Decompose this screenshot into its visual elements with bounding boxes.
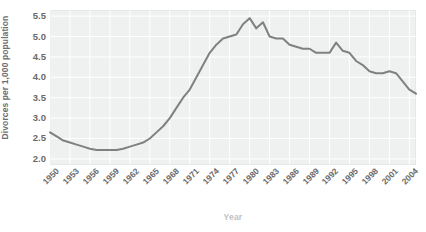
x-axis-tick-label: 1950 <box>37 166 61 190</box>
x-axis-tick-label: 1992 <box>317 166 341 190</box>
x-axis-tick-label: 1977 <box>217 166 241 190</box>
data-series-divorce-rate <box>50 10 416 165</box>
x-axis-tick-label: 1980 <box>237 166 261 190</box>
x-axis-tick-label: 1998 <box>356 166 380 190</box>
x-axis-tick-label: 1986 <box>277 166 301 190</box>
x-axis-tick-label: 1983 <box>257 166 281 190</box>
x-axis-tick-label: 1968 <box>157 166 181 190</box>
x-axis-tick-label: 1956 <box>77 166 101 190</box>
x-axis-ticks: 1950195319561959196219651968197119741977… <box>50 166 416 206</box>
x-axis-tick-label: 1962 <box>117 166 141 190</box>
x-axis-tick-label: 1974 <box>197 166 221 190</box>
y-axis-title-text: Divorces per 1,000 population <box>0 0 10 155</box>
x-axis-tick-label: 1965 <box>137 166 161 190</box>
x-axis-tick-label: 1989 <box>297 166 321 190</box>
divorce-rate-line <box>50 18 416 150</box>
x-axis-tick-label: 2001 <box>376 166 400 190</box>
x-axis-title: Year <box>50 212 416 222</box>
x-axis-tick-label: 1953 <box>57 166 81 190</box>
divorce-rate-line-chart: 2.02.53.03.54.04.55.05.5 Divorces per 1,… <box>0 0 426 232</box>
x-axis-tick-label: 1995 <box>336 166 360 190</box>
x-axis-tick-label: 1971 <box>177 166 201 190</box>
y-axis-tick-label: 2.0 <box>0 154 46 164</box>
x-axis-tick-label: 1959 <box>97 166 121 190</box>
plot-area <box>50 10 416 165</box>
x-axis-tick-label: 2004 <box>396 166 420 190</box>
